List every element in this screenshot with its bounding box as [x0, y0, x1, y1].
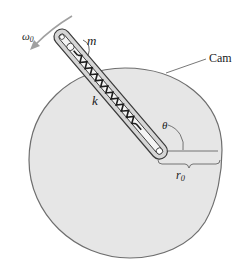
cam-leader-line — [166, 59, 206, 73]
theta-label: θ — [162, 120, 167, 131]
cam-label: Cam — [209, 52, 232, 64]
cam-diagram: ω0 m k Cam θ r0 — [0, 0, 245, 262]
omega-label: ω0 — [22, 31, 34, 44]
cam-disk — [29, 68, 222, 258]
radius-label: r0 — [176, 169, 185, 183]
mass-label: m — [87, 34, 96, 47]
diagram-canvas — [0, 0, 245, 262]
spring-label: k — [92, 94, 98, 107]
